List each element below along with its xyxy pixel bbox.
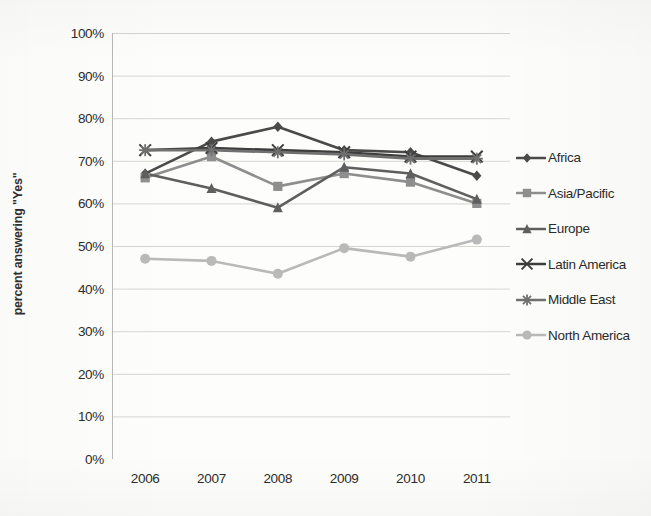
legend-marker-cross-icon bbox=[516, 255, 546, 273]
data-point-asterisk bbox=[521, 294, 532, 305]
chart-legend: AfricaAsia/PacificEuropeLatin AmericaMid… bbox=[516, 140, 646, 353]
x-axis-tick-label: 2009 bbox=[330, 471, 359, 486]
data-point-diamond bbox=[523, 153, 531, 163]
line-chart: percent answering "Yes" 0%10%20%30%40%50… bbox=[0, 0, 651, 516]
x-axis-tick-label: 2008 bbox=[263, 471, 292, 486]
legend-item-label: Latin America bbox=[548, 257, 626, 272]
legend-marker-diamond-icon bbox=[516, 149, 546, 167]
x-axis-tick-label: 2011 bbox=[463, 471, 491, 486]
legend-item-africa[interactable]: Africa bbox=[516, 140, 646, 176]
legend-item-middle-east[interactable]: Middle East bbox=[516, 282, 646, 318]
legend-item-label: North America bbox=[548, 328, 630, 343]
legend-item-label: Europe bbox=[548, 221, 590, 236]
legend-marker-triangle-icon bbox=[516, 220, 546, 238]
legend-item-north-america[interactable]: North America bbox=[516, 318, 646, 354]
legend-item-label: Asia/Pacific bbox=[548, 186, 614, 201]
legend-item-label: Africa bbox=[548, 150, 581, 165]
legend-marker-square-icon bbox=[516, 184, 546, 202]
x-axis-tick-label: 2006 bbox=[131, 471, 160, 486]
legend-item-latin-america[interactable]: Latin America bbox=[516, 247, 646, 283]
legend-marker-circle-icon bbox=[516, 326, 546, 344]
legend-item-europe[interactable]: Europe bbox=[516, 211, 646, 247]
legend-marker-asterisk-icon bbox=[516, 291, 546, 309]
x-axis-tick-label: 2010 bbox=[396, 471, 425, 486]
legend-item-asia-pacific[interactable]: Asia/Pacific bbox=[516, 176, 646, 212]
legend-item-label: Middle East bbox=[548, 292, 615, 307]
x-axis-tick-label: 2007 bbox=[197, 471, 226, 486]
data-point-square bbox=[523, 189, 531, 197]
data-point-circle bbox=[522, 331, 531, 340]
